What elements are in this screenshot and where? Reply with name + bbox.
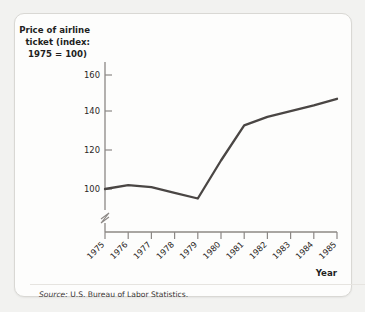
y-tick-label-140: 140 [84, 106, 100, 116]
figure-card: Price of airline ticket (index: 1975 = 1… [14, 13, 352, 297]
x-tick-label-1980: 1980 [201, 239, 223, 261]
page-root: Price of airline ticket (index: 1975 = 1… [0, 0, 365, 312]
chart-title-line-3: 1975 = 100) [28, 49, 87, 59]
x-tick-label-1983: 1983 [270, 239, 292, 261]
source-label: Source: [39, 290, 68, 299]
y-tick-group: 100 120 140 160 [84, 70, 112, 194]
y-tick-label-120: 120 [84, 145, 100, 155]
x-tick-label-1975: 1975 [85, 239, 107, 261]
source-note: Source: U.S. Bureau of Labor Statistics. [39, 290, 188, 299]
x-tick-label-1977: 1977 [131, 239, 153, 261]
x-tick-label-1976: 1976 [108, 239, 130, 261]
source-divider [30, 284, 365, 285]
x-tick-label-1981: 1981 [224, 239, 246, 261]
chart-title-line-2: ticket (index: [25, 37, 90, 47]
data-series-line [105, 99, 337, 199]
axis-break-mark [101, 213, 109, 223]
x-tick-label-1978: 1978 [154, 239, 176, 261]
x-tick-label-1982: 1982 [247, 239, 269, 261]
source-value: U.S. Bureau of Labor Statistics. [68, 290, 188, 299]
x-tick-label-group: 1975 1976 1977 1978 1979 1980 1981 1982 … [85, 239, 339, 261]
x-tick-group [105, 232, 337, 239]
y-tick-label-160: 160 [84, 70, 100, 80]
chart-title-line-1: Price of airline [19, 25, 90, 35]
x-tick-label-1984: 1984 [293, 239, 315, 261]
x-axis-title: Year [315, 268, 338, 278]
x-tick-label-1985: 1985 [317, 239, 339, 261]
y-tick-label-100: 100 [84, 184, 100, 194]
line-chart: Price of airline ticket (index: 1975 = 1… [15, 14, 353, 298]
x-tick-label-1979: 1979 [177, 239, 199, 261]
